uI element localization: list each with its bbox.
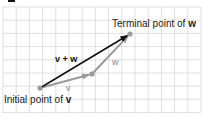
terminal-v-dot: [89, 71, 94, 76]
terminal-w-dot: [127, 31, 132, 36]
w-vector-label: w: [112, 58, 119, 67]
sum-vector-label: v + w: [55, 55, 77, 64]
initial-point-dot: [37, 85, 42, 90]
initial-point-label: Initial point of v: [4, 95, 71, 105]
v-vector-label: v: [66, 84, 71, 93]
vector-w: [92, 36, 128, 74]
terminal-point-label: Terminal point of w: [112, 19, 196, 29]
